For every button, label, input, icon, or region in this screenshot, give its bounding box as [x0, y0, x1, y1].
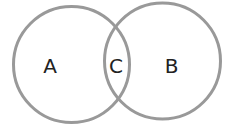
set-b-label: B — [165, 54, 179, 78]
intersection-label: C — [109, 54, 123, 78]
set-a-label: A — [43, 54, 57, 78]
venn-diagram: A C B — [0, 0, 225, 133]
